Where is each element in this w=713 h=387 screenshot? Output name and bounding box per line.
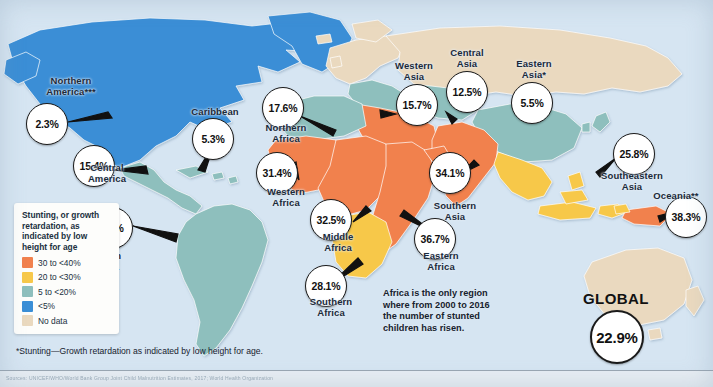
label-northern-america: Northern America*** — [28, 75, 114, 97]
label-northern-africa-line2: Africa — [255, 133, 317, 144]
label-central-asia: Central Asia — [440, 47, 494, 69]
callout-southern-asia[interactable]: 34.1% — [429, 152, 471, 194]
legend-label-no-data: No data — [38, 316, 67, 326]
label-eastern-asia-line1: Eastern — [506, 58, 562, 69]
label-eastern-africa-line2: Africa — [412, 261, 470, 272]
callout-central-asia[interactable]: 12.5% — [446, 71, 488, 113]
callout-southeastern-asia[interactable]: 25.8% — [613, 133, 655, 175]
callout-oceania[interactable]: 38.3% — [665, 196, 707, 238]
label-middle-africa: Middle Africa — [310, 231, 366, 253]
label-southern-africa-line2: Africa — [300, 307, 362, 318]
legend-item-30-40[interactable]: 30 to <40% — [22, 257, 112, 268]
label-northern-america-line2: America*** — [28, 86, 114, 97]
callout-eastern-asia[interactable]: 5.5% — [511, 82, 553, 124]
infographic-root: Northern America*** Central America Cari… — [0, 0, 713, 387]
legend-label-under-5: <5% — [38, 301, 55, 311]
label-eastern-africa-line1: Eastern — [412, 250, 470, 261]
label-southeastern-asia: Southeastern Asia — [591, 170, 673, 192]
label-middle-africa-line2: Africa — [310, 242, 366, 253]
label-central-asia-line1: Central — [440, 47, 494, 58]
legend-item-under-5[interactable]: <5% — [22, 301, 112, 312]
label-eastern-africa: Eastern Africa — [412, 250, 470, 272]
legend-item-no-data[interactable]: No data — [22, 315, 112, 326]
legend-title: Stunting, or growth retardation, as indi… — [22, 210, 112, 252]
label-southern-asia: Southern Asia — [424, 200, 486, 222]
footnote: *Stunting—Growth retardation as indicate… — [16, 346, 263, 356]
label-central-america: Central America — [72, 162, 142, 184]
label-central-asia-line2: Asia — [440, 58, 494, 69]
legend-item-20-30[interactable]: 20 to <30% — [22, 272, 112, 283]
legend-swatch-under-5 — [22, 301, 33, 312]
legend-label-30-40: 30 to <40% — [38, 258, 81, 268]
legend-label-20-30: 20 to <30% — [38, 272, 81, 282]
label-northern-america-line1: Northern — [28, 75, 114, 86]
label-northern-africa-line1: Northern — [255, 122, 317, 133]
label-middle-africa-line1: Middle — [310, 231, 366, 242]
label-western-africa-line1: Western — [256, 186, 316, 197]
global-label: GLOBAL — [583, 290, 649, 307]
legend-swatch-20-30 — [22, 272, 33, 283]
tail-middle-africa — [353, 206, 371, 222]
label-central-america-line2: America — [72, 173, 142, 184]
label-southeastern-asia-line1: Southeastern — [591, 170, 673, 181]
label-central-america-line1: Central — [72, 162, 142, 173]
legend-swatch-5-20 — [22, 286, 33, 297]
source-text: Sources: UNICEF/WHO/World Bank Group Joi… — [0, 371, 713, 381]
tail-northern-america — [68, 112, 112, 122]
label-southern-africa: Southern Africa — [300, 296, 362, 318]
label-oceania: Oceania** — [646, 190, 706, 201]
callout-caribbean[interactable]: 5.3% — [192, 118, 234, 160]
label-eastern-asia: Eastern Asia* — [506, 58, 562, 80]
legend: Stunting, or growth retardation, as indi… — [14, 203, 119, 334]
legend-swatch-30-40 — [22, 257, 33, 268]
label-caribbean: Caribbean — [183, 106, 247, 117]
tail-southern-america — [133, 226, 178, 242]
source-strip: Sources: UNICEF/WHO/World Bank Group Joi… — [0, 370, 713, 387]
label-western-africa: Western Africa — [256, 186, 316, 208]
tail-western-asia — [380, 110, 396, 118]
label-western-asia: Western Asia — [385, 60, 443, 82]
tail-central-asia — [446, 112, 457, 124]
africa-annotation: Africa is the only region where from 200… — [383, 288, 505, 334]
legend-swatch-no-data — [22, 315, 33, 326]
label-southern-asia-line1: Southern — [424, 200, 486, 211]
label-southern-africa-line1: Southern — [300, 296, 362, 307]
label-eastern-asia-line2: Asia* — [506, 69, 562, 80]
label-western-asia-line1: Western — [385, 60, 443, 71]
legend-label-5-20: 5 to <20% — [38, 287, 76, 297]
label-western-asia-line2: Asia — [385, 71, 443, 82]
label-southern-asia-line2: Asia — [424, 211, 486, 222]
label-western-africa-line2: Africa — [256, 197, 316, 208]
callout-northern-america[interactable]: 2.3% — [26, 103, 68, 145]
callout-global[interactable]: 22.9% — [590, 310, 644, 364]
label-northern-africa: Northern Africa — [255, 122, 317, 144]
legend-item-5-20[interactable]: 5 to <20% — [22, 286, 112, 297]
callout-western-asia[interactable]: 15.7% — [396, 84, 438, 126]
